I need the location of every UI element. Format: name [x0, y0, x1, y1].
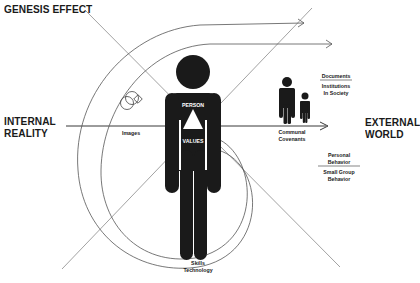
external-world-label-line1: EXTERNAL — [365, 117, 420, 129]
values-label: VALUES — [180, 137, 206, 144]
documents-label: Documents — [319, 72, 353, 79]
personal-behavior-label-line2: Behavior — [322, 158, 356, 165]
internal-reality-label-line2: REALITY — [4, 128, 48, 140]
person-figure-icon — [165, 55, 221, 260]
diagram-title: GENESIS EFFECT — [4, 4, 92, 16]
person-label: PERSON — [180, 101, 206, 108]
skills-technology-label-line2: Technology — [181, 266, 215, 273]
community-figures-icon — [279, 77, 310, 124]
external-world-label-line2: WORLD — [365, 129, 404, 141]
images-symbol-icon — [121, 92, 143, 110]
institutions-label-line2: In Society — [319, 89, 353, 96]
communal-covenants-label-line2: Covenants — [275, 135, 309, 142]
small-group-behavior-label-line2: Behavior — [322, 175, 356, 182]
internal-reality-label-line1: INTERNAL — [4, 116, 56, 128]
images-label: Images — [120, 129, 142, 136]
